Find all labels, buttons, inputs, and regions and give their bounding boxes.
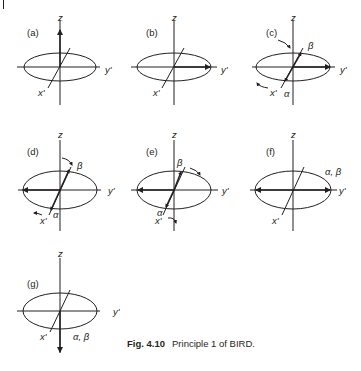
z-axis-label: z <box>290 129 296 140</box>
y-axis-label: y' <box>104 64 113 75</box>
y-axis-label: y' <box>339 64 348 75</box>
panel-label: (b) <box>146 27 158 38</box>
alpha-vector <box>166 190 174 207</box>
panel-label: (g) <box>27 278 39 289</box>
panel-b <box>131 20 217 105</box>
beta-label: β <box>76 160 83 171</box>
panel-f <box>250 140 337 231</box>
panel-c <box>252 20 335 105</box>
rotation-arrow-alpha <box>168 218 176 223</box>
x-axis-label: x' <box>269 87 278 98</box>
x-axis <box>162 48 184 88</box>
alpha-beta-label: α, β <box>325 166 342 177</box>
figure-caption-text: Principle 1 of BIRD. <box>172 338 255 349</box>
alpha-vector <box>51 190 60 210</box>
x-axis-label: x' <box>152 87 161 98</box>
z-axis-label: z <box>171 129 177 140</box>
alpha-beta-label: α, β <box>73 331 90 342</box>
panel-e <box>131 140 218 231</box>
panel-label: (c) <box>266 27 277 38</box>
figure-caption: Fig. 4.10Principle 1 of BIRD. <box>127 338 255 349</box>
z-axis-label: z <box>57 129 63 140</box>
beta-vector <box>174 172 181 190</box>
beta-vector <box>60 170 69 190</box>
x-axis-label: x' <box>271 215 280 226</box>
panel-label: (e) <box>146 146 158 157</box>
beta-label: β <box>176 157 183 168</box>
x-axis-label: x' <box>39 215 48 226</box>
alpha-vector <box>285 67 293 81</box>
z-axis-label: z <box>171 12 177 23</box>
alpha-label: α <box>53 209 59 220</box>
x-axis-label: x' <box>39 331 48 342</box>
z-axis-label: z <box>290 12 296 23</box>
alpha-label: α <box>284 88 290 99</box>
figure-number: Fig. 4.10 <box>127 338 165 349</box>
y-axis-label: y' <box>112 306 121 317</box>
z-axis-label: z <box>57 248 63 259</box>
z-axis-label: z <box>57 12 63 23</box>
rotation-arrow-beta <box>62 158 72 165</box>
rotation-arrow-beta <box>278 40 290 48</box>
x-axis-label: x' <box>37 87 46 98</box>
beta-vector <box>293 53 301 67</box>
y-axis-label: y' <box>220 64 229 75</box>
beta-label: β <box>307 40 314 51</box>
bird-principle-diagram: (a) z y' x' (b) z y' x' (c) z y' x' β α … <box>0 0 361 371</box>
y-axis-label: y' <box>221 185 230 196</box>
y-axis-label: y' <box>107 185 116 196</box>
panel-label: (a) <box>27 27 39 38</box>
x-axis <box>48 48 70 88</box>
panel-label: (f) <box>266 146 275 157</box>
alpha-label: α <box>157 207 163 218</box>
rotation-arrow-alpha <box>257 83 268 88</box>
y-axis-label: y' <box>338 185 347 196</box>
panel-label: (d) <box>27 146 39 157</box>
